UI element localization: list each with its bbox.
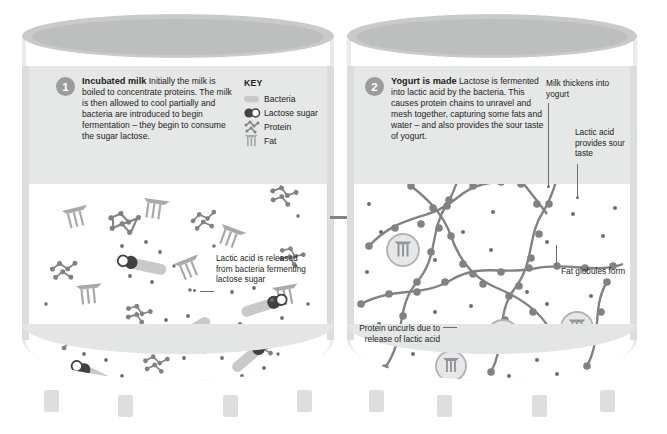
step-number-badge-2: 2 <box>365 77 384 96</box>
jar-rim-2 <box>347 14 637 58</box>
jar-panel-2: 2 Yogurt is made Lactose is fermented in… <box>347 14 637 418</box>
jar-leg <box>600 390 615 412</box>
jar-glass-edge-right-2 <box>630 66 637 340</box>
fat-icon <box>244 135 259 148</box>
jar-leg <box>437 395 452 417</box>
key-item-bacteria: Bacteria <box>244 92 318 106</box>
jar-glass-edge-left-1 <box>22 66 29 340</box>
key-item-lactose: Lactose sugar <box>244 106 318 120</box>
step-1: 1 Incubated milk Initially the milk is b… <box>56 76 232 143</box>
leader-line-fat-globules <box>556 245 557 267</box>
annotation-protein-uncurls: Protein uncurls due to release of lactic… <box>352 323 440 344</box>
key-legend: KEY Bacteria Lactose sugar Protein <box>244 78 318 148</box>
step-title-1: Incubated milk <box>82 76 146 86</box>
key-item-protein: Protein <box>244 120 318 134</box>
annotation-lactic-acid-right: Lactic acid provides sour taste <box>575 127 637 159</box>
key-label-bacteria: Bacteria <box>264 94 296 104</box>
jar-leg <box>369 390 384 412</box>
annotation-lactic-acid-left: Lactic acid is released from bacteria fe… <box>216 253 312 285</box>
protein-icon <box>244 121 259 134</box>
step-title-2: Yogurt is made <box>391 76 457 86</box>
jar-leg <box>297 390 312 412</box>
key-title: KEY <box>244 78 318 88</box>
leader-line-protein-uncurls <box>443 327 457 328</box>
key-label-fat: Fat <box>264 136 276 146</box>
jar-panel-1: 1 Incubated milk Initially the milk is b… <box>22 14 334 418</box>
bacteria-icon <box>244 93 259 106</box>
jar-glass-edge-right-1 <box>327 66 334 340</box>
key-label-protein: Protein <box>264 122 291 132</box>
jar-leg <box>118 395 133 417</box>
lactose-icon <box>244 107 259 120</box>
jar-leg <box>532 395 547 417</box>
step-2: 2 Yogurt is made Lactose is fermented in… <box>365 76 547 143</box>
jar-glass-edge-left-2 <box>347 66 354 340</box>
yogurt-fermentation-diagram: 1 Incubated milk Initially the milk is b… <box>0 0 667 434</box>
jar-leg <box>223 395 238 417</box>
leader-line-lactic-acid-right <box>577 164 578 196</box>
jar-leg <box>44 390 59 412</box>
jar-rim-1 <box>22 14 334 58</box>
leader-line-lactic-acid-left <box>200 291 214 292</box>
key-item-fat: Fat <box>244 134 318 148</box>
step-number-badge-1: 1 <box>56 77 75 96</box>
annotation-milk-thickens: Milk thickens into yogurt <box>546 78 630 99</box>
key-label-lactose: Lactose sugar <box>264 108 318 118</box>
annotation-fat-globules: Fat globules form <box>561 266 629 277</box>
leader-line-milk-thickens <box>548 103 549 185</box>
